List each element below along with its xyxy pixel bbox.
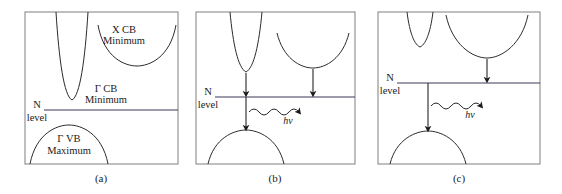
n-level-label-top-c: N	[386, 72, 394, 83]
x-cb-sublabel: Minimum	[103, 35, 145, 46]
gamma-cb-sublabel: Minimum	[85, 94, 127, 105]
gamma-vb-sublabel: Maximum	[47, 145, 91, 156]
panel-c-caption: (c)	[429, 172, 489, 184]
n-level-label-bottom-b: level	[198, 99, 218, 110]
n-level-label-bottom-c: level	[380, 85, 400, 96]
gamma-cb-label: Γ CB	[95, 83, 118, 94]
photon-label-b: hν	[283, 115, 293, 126]
panel-a: X CB Minimum Γ CB Minimum N level Γ VB M…	[25, 12, 178, 164]
x-cb-label: X CB	[112, 24, 136, 35]
n-level-label-bottom-a: level	[27, 112, 47, 123]
panel-a-caption: (a)	[71, 172, 131, 184]
panel-b-caption: (b)	[245, 172, 305, 184]
n-level-label-top-b: N	[204, 86, 212, 97]
panel-c: hν N level	[378, 12, 540, 164]
gamma-vb-label: Γ VB	[57, 133, 80, 144]
n-level-label-top-a: N	[33, 99, 41, 110]
panel-b: hν N level	[196, 12, 355, 164]
figure-container: X CB Minimum Γ CB Minimum N level Γ VB M…	[0, 0, 562, 194]
band-diagram-svg: X CB Minimum Γ CB Minimum N level Γ VB M…	[0, 0, 562, 194]
photon-label-c: hν	[465, 109, 475, 120]
